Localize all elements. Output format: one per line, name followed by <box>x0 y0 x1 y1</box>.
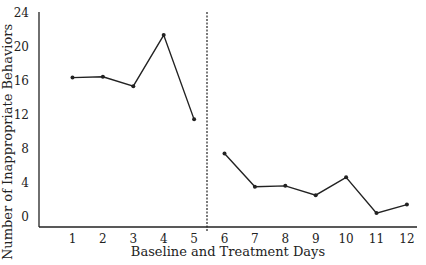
data-point <box>192 117 196 121</box>
data-point <box>344 175 348 179</box>
data-point <box>71 76 75 80</box>
data-point <box>253 185 257 189</box>
y-tick-label: 24 <box>14 6 30 20</box>
data-point <box>131 84 135 88</box>
data-point <box>101 75 105 79</box>
x-tick-label: 11 <box>369 232 384 246</box>
x-tick-label: 12 <box>399 232 414 246</box>
y-axis-title: Number of Inappropriate Behaviors <box>0 24 15 260</box>
x-axis-title: Baseline and Treatment Days <box>131 244 325 259</box>
y-tick-label: 16 <box>14 74 29 88</box>
data-point <box>314 193 318 197</box>
x-tick-label: 10 <box>338 232 353 246</box>
data-series <box>71 33 409 215</box>
x-tick-label: 2 <box>99 232 107 246</box>
y-tick-label: 4 <box>21 176 29 190</box>
data-point <box>375 211 379 215</box>
data-point <box>162 33 166 37</box>
y-tick-label: 0 <box>21 210 29 224</box>
data-point <box>283 184 287 188</box>
data-point <box>405 203 409 207</box>
y-axis-tick-labels: 04812162024 <box>14 6 30 224</box>
line-chart: 04812162024 123456789101112 Baseline and… <box>0 0 426 265</box>
y-tick-label: 12 <box>14 108 29 122</box>
y-tick-label: 8 <box>21 142 29 156</box>
data-point <box>223 151 227 155</box>
series-line-baseline <box>73 35 195 119</box>
series-line-treatment <box>225 153 407 213</box>
y-tick-label: 20 <box>14 40 29 54</box>
x-tick-label: 1 <box>69 232 77 246</box>
